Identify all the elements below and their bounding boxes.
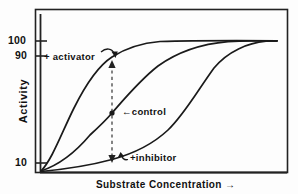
annotation-control: ←control: [122, 106, 166, 117]
x-axis-label: Substrate Concentration →: [96, 179, 235, 190]
plot-canvas: [0, 0, 298, 194]
y-tick-label-100: 100: [8, 34, 26, 46]
figure-frame: [36, 10, 288, 173]
inhibitor-leader-arrowhead: [118, 152, 124, 157]
y-axis-label: Activity: [17, 66, 29, 136]
annotation-activator: + activator: [44, 51, 95, 62]
y-tick-label-10: 10: [15, 156, 27, 168]
control-point-marker: [109, 110, 114, 115]
y-tick-label-90: 90: [15, 49, 27, 61]
enzyme-kinetics-figure: 100 90 10 Activity Substrate Concentrati…: [0, 0, 298, 194]
measure-arrowhead-up: [108, 60, 115, 68]
annotation-inhibitor: +inhibitor: [130, 152, 177, 163]
